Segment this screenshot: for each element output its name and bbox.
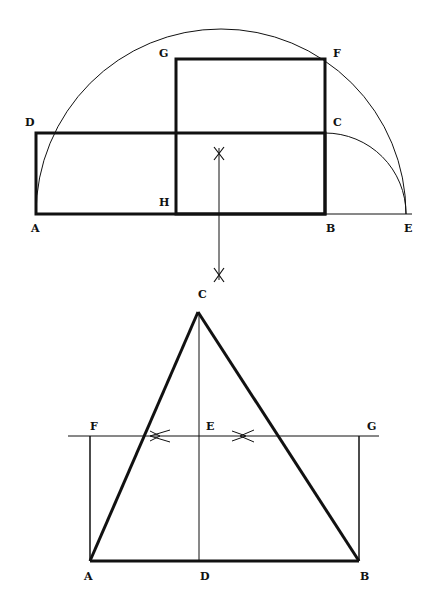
label-d2: D — [200, 570, 210, 583]
label-d: D — [25, 116, 35, 129]
rectangle-gfbh — [176, 59, 325, 214]
label-g2: G — [367, 420, 376, 433]
semicircle-arc — [36, 29, 406, 214]
label-c2: C — [198, 288, 207, 301]
label-c: C — [333, 116, 342, 129]
label-f2: F — [90, 420, 98, 433]
quarter-arc — [325, 133, 406, 214]
label-e2: E — [206, 420, 214, 433]
label-b2: B — [360, 570, 369, 583]
figure-top — [36, 29, 412, 282]
figure-bottom — [68, 312, 379, 561]
label-a2: A — [83, 570, 93, 583]
diagram-canvas: A B C D E F G H — [0, 0, 431, 611]
label-b: B — [326, 222, 335, 235]
label-h: H — [159, 196, 169, 209]
rectangle-abcd — [36, 133, 325, 214]
label-g: G — [159, 47, 168, 60]
label-f: F — [333, 47, 341, 60]
label-a: A — [30, 222, 40, 235]
label-e: E — [404, 222, 412, 235]
